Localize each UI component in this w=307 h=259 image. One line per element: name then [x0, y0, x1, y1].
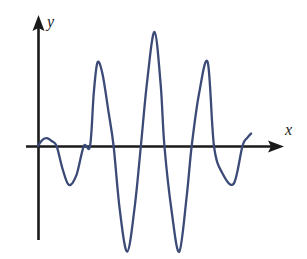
wave-curve	[38, 32, 251, 252]
y-axis-label: y	[47, 14, 54, 30]
plot-canvas	[0, 0, 307, 259]
figure-container: y x	[0, 0, 307, 259]
x-axis-label: x	[285, 122, 292, 138]
